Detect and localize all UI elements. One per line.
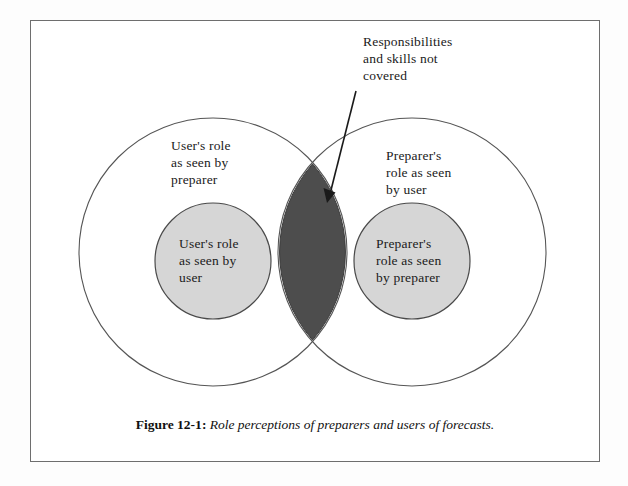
callout-label: Responsibilities and skills not covered bbox=[363, 33, 523, 84]
figure-frame: Responsibilities and skills not covered … bbox=[30, 20, 600, 462]
caption-separator: : bbox=[202, 417, 207, 432]
figure-caption: Figure 12-1: Role perceptions of prepare… bbox=[31, 417, 599, 433]
inner-right-label: Preparer's role as seen by preparer bbox=[376, 235, 516, 286]
outer-right-label: Preparer's role as seen by user bbox=[386, 147, 536, 198]
outer-left-label: User's role as seen by preparer bbox=[171, 137, 311, 188]
inner-left-label: User's role as seen by user bbox=[179, 235, 311, 286]
caption-number: Figure 12-1 bbox=[136, 417, 202, 432]
caption-text: Role perceptions of preparers and users … bbox=[210, 417, 494, 432]
figure-page: Responsibilities and skills not covered … bbox=[0, 0, 628, 486]
